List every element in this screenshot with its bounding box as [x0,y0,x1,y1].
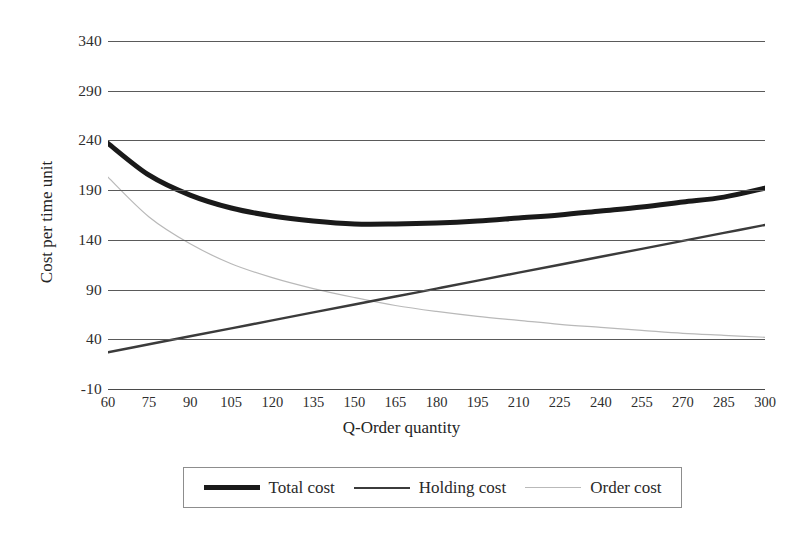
cost-chart: 3402902401901409040-10 60759010512013515… [0,0,803,539]
x-axis-tick-label: 165 [375,393,415,411]
x-axis-tick-label: 60 [88,393,128,411]
y-axis-tick-label: 290 [42,83,102,99]
legend-swatch-holding-cost-icon [354,487,410,489]
plot-area [108,41,765,389]
gridline [108,190,765,191]
x-axis-tick-label: 135 [293,393,333,411]
legend-item-holding-cost[interactable]: Holding cost [354,478,506,498]
x-axis-tick-label: 225 [540,393,580,411]
x-axis-tick-label: 120 [252,393,292,411]
legend-label-total-cost: Total cost [269,478,335,498]
x-axis-tick-label: 210 [499,393,539,411]
y-axis-tick-label: 340 [42,33,102,49]
y-axis-title: Cost per time unit [37,127,57,317]
series-line-holding-cost [108,225,765,352]
y-axis-tick-label: 40 [42,331,102,347]
x-axis-tick-label: 150 [334,393,374,411]
legend-item-total-cost[interactable]: Total cost [204,478,335,498]
gridline [108,339,765,340]
x-axis-tick-label: 255 [622,393,662,411]
gridline [108,140,765,141]
x-axis-tick-label: 105 [211,393,251,411]
x-axis-line [108,389,765,390]
x-axis-title: Q-Order quantity [0,418,803,438]
gridline [108,91,765,92]
legend-swatch-order-cost-icon [525,487,581,488]
series-layer [108,41,765,389]
x-axis-tick-label: 285 [704,393,744,411]
legend-item-order-cost[interactable]: Order cost [525,478,661,498]
legend-swatch-total-cost-icon [204,485,260,490]
gridline [108,290,765,291]
legend-label-order-cost: Order cost [590,478,661,498]
gridline [108,41,765,42]
x-axis-ticks: 6075901051201351501651801952102252402552… [0,393,803,417]
x-axis-tick-label: 240 [581,393,621,411]
x-axis-tick-label: 75 [129,393,169,411]
x-axis-tick-label: 195 [458,393,498,411]
x-axis-tick-label: 300 [745,393,785,411]
x-axis-tick-label: 270 [663,393,703,411]
gridline [108,240,765,241]
legend-label-holding-cost: Holding cost [419,478,506,498]
series-line-total-cost [108,143,765,224]
x-axis-tick-label: 90 [170,393,210,411]
chart-legend: Total cost Holding cost Order cost [183,467,682,508]
x-axis-tick-label: 180 [417,393,457,411]
